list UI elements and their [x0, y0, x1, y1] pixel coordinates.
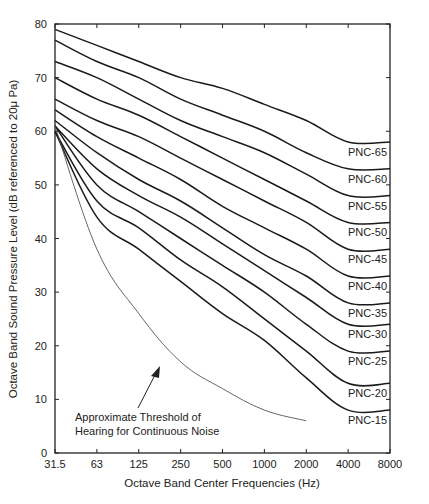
x-axis: 31.5631252505001000200040008000 [44, 24, 402, 470]
curve-pnc-50 [55, 78, 390, 225]
curve-pnc-25 [55, 126, 390, 353]
x-tick-label: 63 [91, 458, 103, 470]
x-tick-label: 1000 [252, 458, 276, 470]
curve-label-pnc-65: PNC-65 [348, 146, 387, 158]
pnc-curves [55, 29, 390, 412]
curve-label-pnc-35: PNC-35 [348, 307, 387, 319]
x-tick-label: 31.5 [44, 458, 65, 470]
curve-pnc-35 [55, 121, 390, 306]
threshold-annotation: Approximate Threshold of Hearing for Con… [75, 366, 219, 437]
y-tick-label: 70 [35, 72, 47, 84]
y-axis: 01020304050607080 [35, 18, 390, 459]
x-tick-label: 125 [130, 458, 148, 470]
curve-pnc-65 [55, 29, 390, 143]
curve-label-pnc-25: PNC-25 [348, 355, 387, 367]
y-axis-title: Octave Band Sound Pressure Level (dB ref… [7, 80, 19, 399]
annotation-line-1: Approximate Threshold of [75, 411, 202, 423]
x-tick-label: 500 [213, 458, 231, 470]
arrow-head-icon [151, 366, 160, 378]
curve-label-pnc-15: PNC-15 [348, 414, 387, 426]
annotation-arrow-line [138, 373, 156, 408]
y-tick-label: 30 [35, 286, 47, 298]
curve-pnc-40 [55, 110, 390, 278]
x-tick-label: 4000 [336, 458, 360, 470]
curve-label-pnc-30: PNC-30 [348, 328, 387, 340]
curve-pnc-60 [55, 40, 390, 170]
y-tick-label: 10 [35, 393, 47, 405]
curve-label-pnc-60: PNC-60 [348, 173, 387, 185]
curve-pnc-55 [55, 62, 390, 198]
y-tick-label: 50 [35, 179, 47, 191]
pnc-chart: 01020304050607080 31.5631252505001000200… [0, 0, 429, 504]
curve-label-pnc-45: PNC-45 [348, 253, 387, 265]
y-tick-label: 20 [35, 340, 47, 352]
x-axis-title: Octave Band Center Frequencies (Hz) [124, 477, 320, 489]
x-tick-label: 8000 [378, 458, 402, 470]
curve-label-pnc-50: PNC-50 [348, 226, 387, 238]
curve-label-pnc-55: PNC-55 [348, 200, 387, 212]
curve-label-pnc-40: PNC-40 [348, 280, 387, 292]
annotation-line-2: Hearing for Continuous Noise [75, 425, 219, 437]
curve-label-pnc-20: PNC-20 [348, 387, 387, 399]
y-tick-label: 80 [35, 18, 47, 30]
y-tick-label: 40 [35, 233, 47, 245]
x-tick-label: 2000 [294, 458, 318, 470]
x-tick-label: 250 [171, 458, 189, 470]
y-tick-label: 60 [35, 125, 47, 137]
